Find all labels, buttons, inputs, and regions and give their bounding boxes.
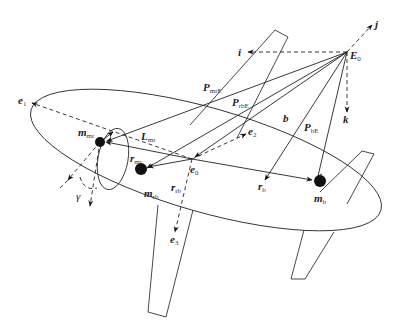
- horizontal-stabilizer: [291, 230, 334, 279]
- rmr-vector: [106, 142, 192, 159]
- rb-vector: [192, 159, 312, 180]
- PbE-vector: [265, 52, 347, 180]
- label-rrb: rrb: [171, 181, 182, 195]
- label-PrbE: PrbE: [232, 96, 249, 110]
- PrbE-vector: [147, 52, 347, 168]
- label-i: i: [238, 46, 242, 58]
- position-vectors: [107, 52, 347, 180]
- mass-mr: [95, 137, 105, 147]
- label-PbE: PbE: [304, 121, 319, 135]
- label-rmr: rmr: [130, 152, 143, 166]
- label-Lmr: Lmr: [140, 130, 156, 144]
- tail-fin: [320, 151, 374, 204]
- body-frame: [32, 103, 312, 232]
- P-e0-vector: [195, 52, 347, 157]
- label-e2: e2: [248, 125, 257, 139]
- label-e3: e3: [170, 233, 179, 247]
- label-k: k: [343, 113, 349, 125]
- label-PmrE: PmrE: [203, 81, 222, 95]
- label-j: j: [373, 18, 379, 30]
- label-gamma: γ: [76, 190, 81, 202]
- label-b: b: [283, 112, 289, 124]
- label-e0: e0: [190, 163, 199, 177]
- nose-ring: [93, 126, 133, 192]
- label-rb: rb: [258, 180, 266, 194]
- label-mb: mb: [314, 192, 327, 206]
- label-e1: e1: [18, 94, 27, 108]
- label-E0: E0: [349, 49, 361, 63]
- aircraft-moving-mass-diagram: E0 i j k e1 e2 e3 e0 b PmrE PrbE PbE Lmr…: [0, 0, 394, 333]
- mass-b: [314, 175, 326, 187]
- e1-axis-arrow: [32, 103, 192, 159]
- gamma-axes: [60, 132, 113, 206]
- label-mrb: mrb: [144, 187, 159, 201]
- label-mmr: mmr: [78, 126, 95, 140]
- lower-wing: [148, 205, 193, 317]
- j-axis-arrow: [347, 25, 372, 52]
- rrb-vector: [148, 159, 192, 167]
- e2-axis-arrow: [192, 134, 246, 159]
